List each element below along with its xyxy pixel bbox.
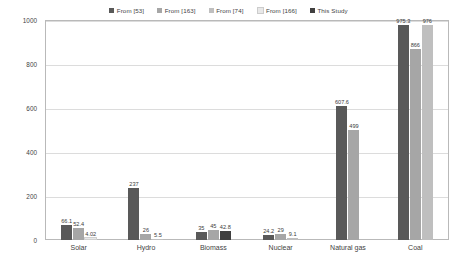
y-axis-tick-label: 400 [26,149,41,156]
bar-slot: 866 [410,20,421,240]
bar-group: 354542.8 [180,20,247,240]
x-axis-category-label: Nuclear [247,244,314,251]
bar: 9.1 [287,238,298,240]
y-axis-tick-label: 0 [33,237,41,244]
bar: 26 [140,234,151,240]
x-axis-category-label: Coal [382,244,449,251]
bar-groups: 66.152.44.02237265.5354542.824.2299.1607… [45,20,449,240]
bar: 35 [196,232,207,240]
bar: 42.8 [220,231,231,240]
bar-slot: 24.2 [263,20,274,240]
x-axis-labels: SolarHydroBiomassNuclearNatural gasCoal [45,244,449,251]
bar: 24.2 [263,235,274,240]
bar-slot: 29 [275,20,286,240]
bar-slot: 66.1 [61,20,72,240]
bar-slot: 607.6 [336,20,347,240]
legend-item: From [74] [209,7,244,14]
bar-value-label: 29 [278,228,284,234]
x-axis-category-label: Biomass [180,244,247,251]
chart-legend: From [53]From [163]From [74]From [166]Th… [0,7,457,14]
bar-value-label: 52.4 [73,222,84,228]
bar-slot: 35 [196,20,207,240]
bar-group: 66.152.44.02 [45,20,112,240]
legend-item: From [163] [157,7,195,14]
bar-group: 24.2299.1 [247,20,314,240]
bar-slot: 499 [348,20,359,240]
bar-value-label: 975.3 [396,19,410,25]
bar-value-label: 5.5 [154,233,162,239]
y-axis-tick-label: 200 [26,193,41,200]
bar-slot: 976 [422,20,433,240]
bar: 237 [128,188,139,240]
bar-value-label: 24.2 [263,229,274,235]
bar-value-label: 42.8 [220,225,231,231]
legend-item-label: From [53] [117,7,144,14]
bar-slot: 4.02 [85,20,96,240]
x-axis-category-label: Solar [45,244,112,251]
bar-value-label: 9.1 [289,232,297,238]
bar-value-label: 866 [411,43,420,49]
bar-value-label: 499 [349,124,358,130]
bar-slot: 26 [140,20,151,240]
bar-group: 607.6499 [314,20,381,240]
bar-slot: 45 [208,20,219,240]
legend-item: This Study [310,7,348,14]
bar: 5.5 [152,239,163,240]
bar-value-label: 4.02 [85,232,96,238]
legend-item-label: From [166] [266,7,297,14]
bar-slot: 237 [128,20,139,240]
bar: 52.4 [73,228,84,240]
bar: 45 [208,230,219,240]
bar-value-label: 26 [143,228,149,234]
bar-value-label: 45 [210,224,216,230]
bar: 29 [275,234,286,240]
bar-slot: 975.3 [398,20,409,240]
legend-swatch-icon [310,8,315,13]
bar: 976 [422,25,433,240]
bar-group: 237265.5 [112,20,179,240]
ghg-emission-bar-chart: From [53]From [163]From [74]From [166]Th… [0,0,457,274]
bar-value-label: 237 [129,182,138,188]
legend-item: From [53] [109,7,144,14]
legend-swatch-icon [257,7,264,14]
y-axis-ticks: 10008006004002000 [0,20,41,240]
legend-item-label: From [74] [216,7,243,14]
bar-slot: 9.1 [287,20,298,240]
bar: 607.6 [336,106,347,240]
bar-value-label: 976 [423,19,432,25]
bar-value-label: 66.1 [61,219,72,225]
bar: 66.1 [61,225,72,240]
bar: 975.3 [398,25,409,240]
bar-value-label: 35 [198,226,204,232]
y-axis-tick-label: 1000 [23,17,41,24]
bar: 499 [348,130,359,240]
x-axis-category-label: Natural gas [314,244,381,251]
y-axis-tick-label: 800 [26,61,41,68]
bar-group: 975.3866976 [382,20,449,240]
legend-swatch-icon [109,8,114,13]
legend-swatch-icon [209,8,214,13]
bar-slot: 42.8 [220,20,231,240]
bar-slot: 5.5 [152,20,163,240]
bar-slot: 52.4 [73,20,84,240]
bar: 866 [410,49,421,240]
legend-item-label: This Study [317,7,347,14]
legend-item: From [166] [257,7,297,14]
legend-item-label: From [163] [165,7,196,14]
x-axis-category-label: Hydro [112,244,179,251]
bar: 4.02 [84,237,97,240]
legend-swatch-icon [157,8,162,13]
bar-value-label: 607.6 [335,100,349,106]
y-axis-tick-label: 600 [26,105,41,112]
